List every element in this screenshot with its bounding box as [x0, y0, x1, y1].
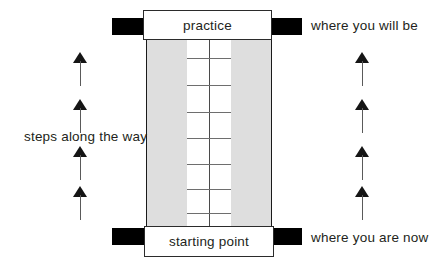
bottom-bar-right	[272, 228, 302, 245]
up-arrow-icon	[355, 146, 369, 180]
ladder-center-stile	[209, 37, 210, 227]
up-arrow-icon	[73, 52, 87, 86]
column-rail-right	[231, 37, 271, 227]
bottom-bar-left	[112, 228, 146, 245]
ladder-rung	[187, 213, 231, 214]
top-bar-right	[272, 18, 302, 35]
ladder-rung	[187, 164, 231, 165]
practice-label-box: practice	[143, 10, 272, 40]
ladder-rung	[187, 85, 231, 86]
column-rail-left	[147, 37, 187, 227]
up-arrow-icon	[73, 99, 87, 133]
top-bar-left	[112, 18, 145, 35]
starting-point-label-box: starting point	[144, 226, 274, 257]
up-arrow-icon	[355, 52, 369, 86]
ladder-rung	[187, 58, 231, 59]
annotation-where-you-are-now: where you are now	[311, 230, 428, 245]
up-arrow-icon	[355, 186, 369, 220]
ladder-rung	[187, 112, 231, 113]
up-arrow-icon	[73, 146, 87, 180]
practice-label-text: practice	[183, 18, 232, 33]
diagram-canvas: practice starting point where you will b…	[0, 0, 445, 269]
ladder-rung	[187, 138, 231, 139]
annotation-where-you-will-be: where you will be	[311, 18, 418, 33]
starting-point-label-text: starting point	[169, 234, 249, 249]
up-arrow-icon	[355, 99, 369, 133]
progress-column	[146, 36, 272, 228]
up-arrow-icon	[73, 186, 87, 220]
ladder-rung	[187, 189, 231, 190]
ladder-rungs-group	[187, 37, 231, 227]
